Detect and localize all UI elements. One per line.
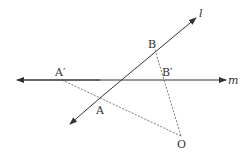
label-point-a-prime: A′ <box>54 66 66 79</box>
label-m: m <box>228 74 238 87</box>
geometry-diagram: l m B A A′ B′ O <box>0 0 247 157</box>
diagram-canvas: l m B A A′ B′ O <box>0 0 247 157</box>
label-point-a: A <box>95 104 105 117</box>
label-point-b: B <box>148 38 156 51</box>
segment-b-o <box>155 50 181 136</box>
segment-a-prime-o <box>62 80 181 136</box>
label-l: l <box>199 7 203 20</box>
label-point-b-prime: B′ <box>162 66 173 79</box>
label-point-o: O <box>177 138 186 151</box>
line-l <box>100 18 196 98</box>
